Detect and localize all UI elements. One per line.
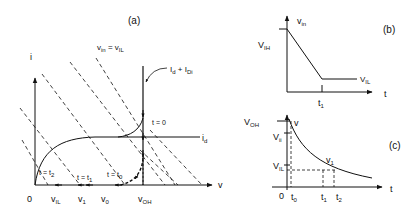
vin-waveform — [287, 29, 357, 79]
x-tick-v1: v1 — [78, 194, 87, 205]
x-tick-0: 0 — [27, 194, 32, 204]
vil-label-c: VIL — [273, 161, 285, 172]
current-pointer-arrow — [146, 68, 167, 82]
v1-label-c: v1 — [326, 155, 335, 166]
i-axis-label: i — [30, 52, 32, 62]
t-zero-label: t = 0 — [152, 119, 166, 126]
x-tick-voh: vOH — [138, 194, 152, 205]
t-t1-label: t = t1 — [77, 174, 93, 183]
x-tick-v0: v0 — [101, 194, 110, 205]
origin-label-c: 0 — [279, 191, 284, 201]
transition-curve — [118, 118, 143, 137]
vil-label-b: VIL — [360, 75, 371, 85]
t1-label-b: t1 — [318, 98, 325, 109]
panel-b: (b) vin VIH VIL t1 t — [258, 16, 395, 109]
panel-a: (a) i v vin = vIL Id + IDi id — [20, 15, 223, 205]
t0-label-c: t0 — [291, 192, 298, 203]
vii-label: Vii — [273, 132, 282, 143]
panel-b-label: (b) — [383, 24, 395, 35]
decay-curve — [289, 119, 372, 178]
t-t2-label: t = t2 — [39, 169, 55, 178]
panel-c: (c) v t VOH Vii VIL v1 0 t0 t1 t2 — [244, 115, 401, 203]
current-label: Id + IDi — [170, 65, 193, 75]
v-axis-label-c: v — [294, 118, 299, 128]
load-lines — [20, 58, 202, 185]
load-line-label: vin = vIL — [97, 43, 124, 53]
voh-label: VOH — [244, 117, 259, 128]
x-tick-vil: vIL — [51, 194, 61, 205]
figure: (a) i v vin = vIL Id + IDi id — [0, 0, 419, 220]
t-axis-label-c: t — [390, 184, 393, 194]
trajectory-curve — [120, 158, 143, 185]
id-curve-label: id — [202, 133, 207, 144]
t2-label-c: t2 — [336, 192, 343, 203]
vih-label: VIH — [258, 40, 270, 51]
t1-label-c: t1 — [321, 192, 328, 203]
panel-a-label: (a) — [128, 15, 140, 26]
vin-label: vin — [297, 16, 306, 27]
t-axis-label-b: t — [384, 89, 387, 99]
v-axis-label: v — [218, 180, 223, 190]
t-t0-label: t = t0 — [107, 171, 123, 180]
panel-c-label: (c) — [389, 140, 401, 151]
